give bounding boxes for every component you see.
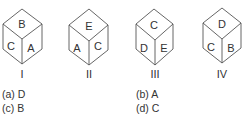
- cube-4-label: IV: [217, 68, 228, 80]
- option-a[interactable]: (a) D: [2, 88, 25, 100]
- cube-4-left-face: C: [207, 41, 215, 53]
- cube-2-top-face: E: [85, 20, 92, 32]
- cube-2: [69, 9, 108, 65]
- cube-3: [136, 9, 173, 65]
- cube-1-label: I: [20, 68, 23, 80]
- cube-3-right-face: E: [160, 42, 167, 54]
- cube-4: [203, 8, 241, 63]
- cube-3-left-face: D: [140, 42, 148, 54]
- cube-2-right-face: C: [94, 40, 102, 52]
- cube-3-label: III: [150, 68, 159, 80]
- cube-4-right-face: B: [227, 42, 234, 54]
- cube-2-left-face: A: [73, 42, 81, 54]
- cube-1-left-face: C: [7, 40, 15, 52]
- cube-1-top-face: B: [18, 18, 25, 30]
- cube-2-label: II: [86, 68, 92, 80]
- option-b[interactable]: (b) A: [136, 88, 158, 100]
- option-d[interactable]: (d) C: [136, 102, 159, 114]
- cube-3-top-face: C: [150, 19, 158, 31]
- option-c[interactable]: (c) B: [2, 102, 24, 114]
- cube-diagram: B C A I E A C II C D E III D C B IV: [0, 0, 244, 90]
- cube-4-top-face: D: [218, 18, 226, 30]
- cube-1-right-face: A: [27, 42, 35, 54]
